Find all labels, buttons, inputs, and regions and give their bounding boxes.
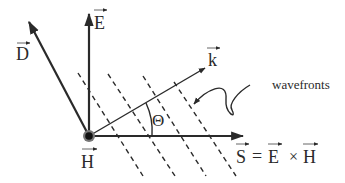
d-vector-arrow — [29, 22, 89, 136]
label-wavefronts: wavefronts — [272, 77, 330, 92]
label-k-text: k — [208, 50, 217, 70]
equation-h: H — [303, 147, 316, 167]
wavefront-pointer-arrow — [194, 85, 250, 115]
label-d: D — [16, 43, 30, 64]
equation-equals: = — [252, 146, 262, 166]
k-vector-arrow — [89, 68, 205, 136]
h-out-of-page-icon — [85, 132, 93, 140]
poynting-equation: S = E × H — [236, 144, 318, 167]
label-theta: Θ — [152, 111, 164, 130]
em-wave-diagram: D E k H Θ wavefronts S = E × H — [0, 0, 345, 183]
label-k: k — [207, 48, 220, 70]
wavefront-line-2 — [108, 74, 175, 176]
label-h: H — [81, 149, 97, 172]
label-d-text: D — [16, 44, 29, 64]
label-e: E — [94, 10, 107, 33]
label-h-text: H — [81, 152, 94, 172]
label-e-text: E — [94, 13, 105, 33]
equation-s: S — [236, 147, 246, 167]
equation-e: E — [268, 147, 279, 167]
equation-cross: × — [289, 148, 298, 165]
